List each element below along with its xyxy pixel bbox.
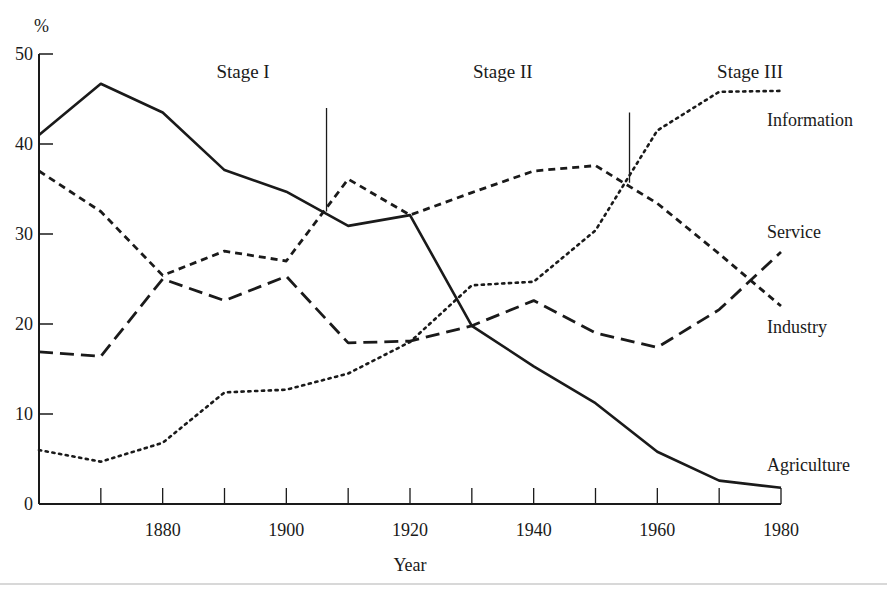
series-line-agriculture [39,84,781,488]
stage-markers: Stage IStage IIStage III [216,61,783,212]
stage-label-1: Stage I [216,61,269,82]
series-lines: AgricultureServiceIndustryInformation [39,84,853,488]
stage-label-2: Stage II [473,61,533,82]
y-tick-label: 50 [15,44,33,64]
series-label-service: Service [767,222,821,242]
series-label-industry: Industry [767,317,827,337]
x-tick-label: 1900 [268,520,304,540]
x-axis-title: Year [393,555,426,575]
axes: 01020304050188019001920194019601980 [15,44,799,540]
scan-artifact-line [0,583,887,585]
x-tick-label: 1940 [516,520,552,540]
series-label-agriculture: Agriculture [767,455,850,475]
y-axis-unit: % [34,16,49,36]
chart: 01020304050188019001920194019601980 Agri… [0,0,887,591]
y-tick-label: 40 [15,134,33,154]
x-tick-label: 1920 [392,520,428,540]
x-tick-label: 1980 [763,520,799,540]
y-tick-label: 10 [15,404,33,424]
y-tick-label: 0 [24,494,33,514]
stage-label-3: Stage III [717,61,783,82]
series-line-service [39,166,781,306]
y-tick-label: 20 [15,314,33,334]
x-tick-label: 1960 [639,520,675,540]
labels: % Year [34,16,427,575]
series-label-information: Information [767,110,853,130]
y-tick-label: 30 [15,224,33,244]
x-tick-label: 1880 [145,520,181,540]
series-line-information [39,91,781,462]
